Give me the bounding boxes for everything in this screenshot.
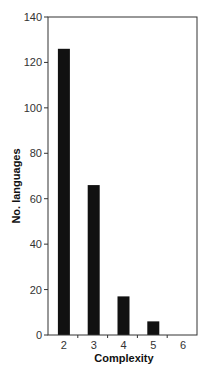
x-tick-label: 5 bbox=[150, 339, 156, 351]
bar-4 bbox=[118, 296, 130, 335]
bar-chart: 020406080100120140 23456 Complexity No. … bbox=[0, 0, 206, 373]
bars bbox=[58, 49, 159, 335]
x-tick-label: 6 bbox=[180, 339, 186, 351]
y-tick-label: 40 bbox=[30, 238, 42, 250]
y-tick-label: 0 bbox=[36, 329, 42, 341]
y-axis-label: No. languages bbox=[10, 148, 22, 223]
plot-border bbox=[48, 17, 197, 335]
y-tick-label: 140 bbox=[24, 11, 42, 23]
x-axis-ticks: 23456 bbox=[61, 335, 186, 351]
bar-2 bbox=[58, 49, 70, 335]
y-tick-label: 60 bbox=[30, 193, 42, 205]
plot-frame bbox=[48, 17, 197, 335]
y-axis-ticks: 020406080100120140 bbox=[24, 11, 48, 341]
x-tick-label: 3 bbox=[91, 339, 97, 351]
y-tick-label: 100 bbox=[24, 102, 42, 114]
bar-3 bbox=[88, 185, 100, 335]
x-tick-label: 4 bbox=[120, 339, 126, 351]
y-tick-label: 120 bbox=[24, 56, 42, 68]
bar-5 bbox=[147, 321, 159, 335]
chart-canvas: 020406080100120140 23456 Complexity No. … bbox=[0, 0, 206, 373]
x-tick-label: 2 bbox=[61, 339, 67, 351]
y-tick-label: 20 bbox=[30, 284, 42, 296]
y-tick-label: 80 bbox=[30, 147, 42, 159]
x-axis-label: Complexity bbox=[94, 352, 154, 364]
